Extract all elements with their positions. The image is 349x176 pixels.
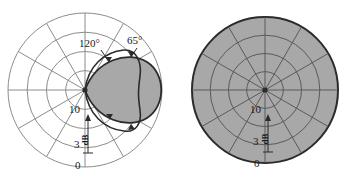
label-beamwidth-65: 65°: [127, 34, 142, 46]
broad-lobe-path: [85, 57, 161, 123]
origin-marker: [82, 87, 87, 92]
left-radial-tick-0: 0: [75, 159, 81, 171]
figure-canvas: 120° 65° 10 3 0 dB: [0, 0, 349, 176]
left-db-axis-label: dB: [80, 134, 90, 145]
db-axis-arrowhead: [85, 114, 91, 121]
right-db-axis-label: dB: [260, 133, 270, 144]
left-polar-chart: 120° 65° 10 3 0 dB: [8, 13, 162, 171]
right-polar-chart: 10 3 0 dB: [192, 17, 338, 169]
right-radial-tick-3: 3: [253, 135, 259, 147]
label-beamwidth-120: 120°: [79, 37, 100, 49]
origin-marker: [262, 87, 267, 92]
polar-pattern-figure: 120° 65° 10 3 0 dB: [0, 0, 349, 176]
left-radial-tick-10: 10: [69, 103, 81, 115]
right-radial-tick-10: 10: [250, 103, 262, 115]
right-radial-tick-0: 0: [254, 157, 260, 169]
